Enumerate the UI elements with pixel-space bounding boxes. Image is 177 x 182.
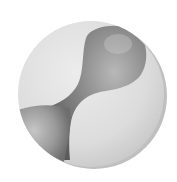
bulb-highlight [104,34,132,54]
lower-lobe [18,105,71,162]
image-canvas [0,0,177,182]
sphere-disc-illustration [0,0,177,182]
